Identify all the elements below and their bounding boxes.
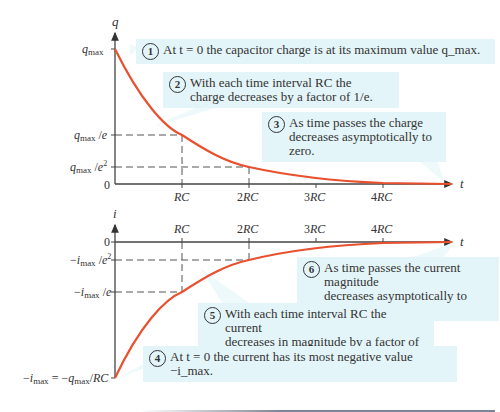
- tick-imax-e: −imax /e: [74, 285, 112, 300]
- tick-2rc-lower: 2RC: [237, 222, 259, 236]
- t-axis-label-upper: t: [460, 176, 464, 191]
- i-axis-label: i: [113, 206, 117, 221]
- callout-4: 4 At t = 0 the current has its most nega…: [143, 346, 457, 382]
- callout-text: As time passes the charge decreases asym…: [289, 116, 438, 158]
- tick-4rc-upper: 4RC: [371, 190, 393, 204]
- tick-4rc-lower: 4RC: [371, 222, 393, 236]
- tick-zero-lower: 0: [104, 235, 110, 249]
- callout-text: With each time interval RC the charge de…: [190, 76, 373, 104]
- t-axis-label-lower: t: [460, 234, 464, 249]
- tick-3rc-lower: 3RC: [304, 222, 326, 236]
- tick-2rc-upper: 2RC: [237, 190, 259, 204]
- callout-text: At t = 0 the current has its most negati…: [170, 350, 449, 378]
- tick-imax: −imax = −qmax/RC: [23, 371, 109, 386]
- callout-number: 1: [142, 43, 159, 60]
- callout-number: 6: [303, 261, 320, 278]
- q-axis-label: q: [112, 14, 119, 29]
- callout-number: 4: [149, 350, 166, 367]
- callout-1: 1 At t = 0 the capacitor charge is at it…: [136, 39, 495, 64]
- tick-rc-lower: RC: [173, 222, 190, 236]
- tick-qmax: qmax: [82, 42, 104, 57]
- callout-3: 3 As time passes the charge decreases as…: [262, 112, 446, 162]
- callout-2: 2 With each time interval RC the charge …: [163, 72, 399, 108]
- tick-imax-e2: −imax /e2: [70, 252, 111, 268]
- tick-rc-upper: RC: [173, 190, 190, 204]
- tick-qmax-e: qmax /e: [74, 128, 108, 143]
- callout-number: 2: [169, 76, 186, 93]
- tick-qmax-e2: qmax /e2: [70, 159, 107, 175]
- tick-zero-upper: 0: [104, 178, 110, 192]
- callout-text: At t = 0 the capacitor charge is at its …: [163, 43, 480, 57]
- tick-3rc-upper: 3RC: [304, 190, 326, 204]
- callout-number: 5: [204, 307, 221, 324]
- callout-number: 3: [268, 116, 285, 133]
